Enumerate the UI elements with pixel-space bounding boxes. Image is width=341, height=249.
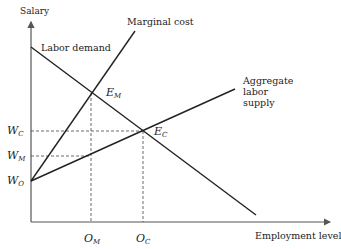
y-axis-label: Salary	[20, 7, 49, 16]
aggregate-labor-supply-label: Aggregate labor supply	[243, 75, 293, 108]
em-main: E	[106, 86, 114, 99]
supply-label-line1: Aggregate	[243, 75, 293, 86]
supply-label-line3: supply	[243, 97, 293, 108]
ec-point-label: EC	[154, 126, 167, 139]
ec-main: E	[154, 125, 162, 138]
wo-tick-label: WO	[7, 175, 24, 188]
oc-sub: C	[145, 238, 150, 246]
om-tick-label: OM	[84, 233, 100, 246]
labor-demand-label: Labor demand	[41, 43, 111, 53]
wm-main: W	[7, 149, 18, 162]
x-axis-label: Employment level	[255, 231, 341, 241]
em-point-label: EM	[106, 87, 121, 100]
marginal-cost-label: Marginal cost	[127, 17, 194, 27]
om-main: O	[84, 232, 93, 245]
em-sub: M	[114, 92, 121, 100]
om-sub: M	[93, 238, 100, 246]
supply-label-line2: labor	[243, 86, 293, 97]
labor-supply-curve	[31, 89, 235, 181]
wm-tick-label: WM	[7, 150, 25, 163]
wm-sub: M	[18, 155, 25, 163]
wo-main: W	[7, 174, 18, 187]
ec-sub: C	[162, 131, 167, 139]
marginal-cost-curve	[31, 31, 135, 181]
oc-main: O	[136, 232, 145, 245]
oc-tick-label: OC	[136, 233, 150, 246]
wc-sub: C	[18, 130, 23, 138]
wo-sub: O	[18, 180, 24, 188]
wc-tick-label: WC	[7, 125, 24, 138]
wc-main: W	[7, 124, 18, 137]
